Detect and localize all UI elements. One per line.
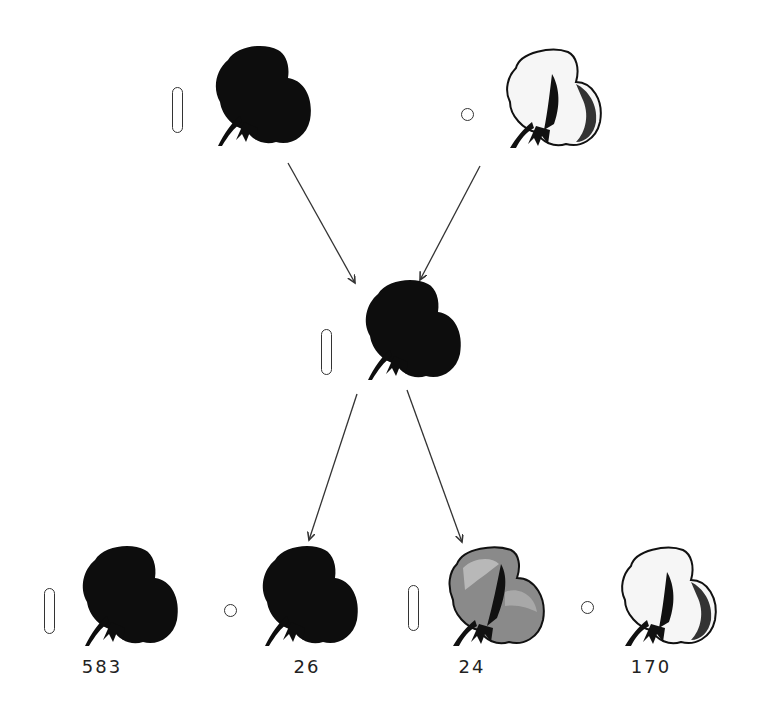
arrow-parent-left-to-f1 bbox=[288, 163, 355, 283]
arrow-parent-right-to-f1 bbox=[420, 166, 480, 280]
arrow-f1-to-f2-right bbox=[407, 390, 462, 542]
arrow-f1-to-f2-left bbox=[309, 394, 357, 540]
round-pollen-icon-f2-4 bbox=[581, 601, 594, 614]
flower-f2-4 bbox=[622, 548, 716, 646]
count-f2-2: 26 bbox=[267, 656, 347, 677]
count-f2-3: 24 bbox=[432, 656, 512, 677]
count-f2-1: 583 bbox=[62, 656, 142, 677]
long-pollen-icon-f2-1 bbox=[44, 588, 55, 634]
flower-f2-2 bbox=[263, 546, 358, 646]
flower-parent-right bbox=[507, 50, 601, 148]
flower-f1 bbox=[366, 280, 461, 380]
flower-f2-3 bbox=[450, 547, 544, 646]
long-pollen-icon-f2-3 bbox=[408, 585, 419, 631]
round-pollen-icon-f2-2 bbox=[224, 604, 237, 617]
long-pollen-icon-f1 bbox=[321, 329, 332, 375]
count-f2-4: 170 bbox=[611, 656, 691, 677]
genetics-cross-diagram: 583 26 24 170 bbox=[0, 0, 757, 718]
long-pollen-icon-parent-left bbox=[172, 87, 183, 133]
flower-parent-left bbox=[216, 46, 311, 146]
cross-arrows bbox=[0, 0, 757, 718]
flower-f2-1 bbox=[83, 546, 178, 646]
round-pollen-icon-parent-right bbox=[461, 108, 474, 121]
